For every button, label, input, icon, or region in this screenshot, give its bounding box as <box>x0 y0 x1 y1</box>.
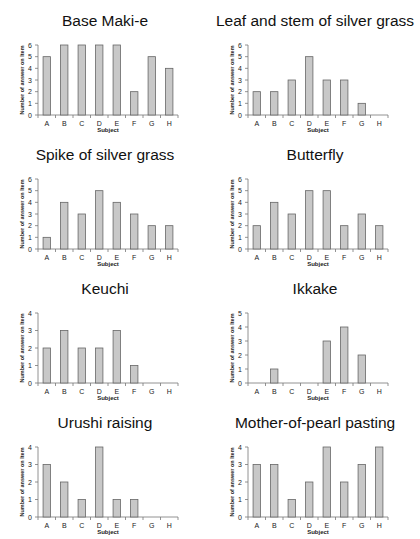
x-tick-label: C <box>289 120 294 127</box>
x-tick-label: E <box>114 388 119 395</box>
x-tick-label: G <box>359 254 364 261</box>
x-tick-label: B <box>272 120 277 127</box>
y-axis-label: Number of answer on Item <box>229 442 235 522</box>
y-axis-label: Number of answer on Item <box>229 174 235 254</box>
y-tick-label: 2 <box>28 88 32 95</box>
bar <box>113 202 120 249</box>
y-tick-label: 1 <box>238 366 242 373</box>
bar-chart: 0123456ABCDEFGH <box>0 134 210 268</box>
bar <box>288 214 295 249</box>
x-tick-label: E <box>324 120 329 127</box>
y-tick-label: 2 <box>238 479 242 486</box>
bar <box>271 465 278 518</box>
bar <box>61 331 68 384</box>
bar <box>43 465 50 518</box>
bar <box>271 369 278 383</box>
y-tick-label: 3 <box>238 338 242 345</box>
bar <box>113 45 120 115</box>
y-tick-label: 0 <box>28 112 32 119</box>
x-tick-label: H <box>377 120 382 127</box>
bar <box>306 57 313 115</box>
x-tick-label: F <box>132 120 136 127</box>
x-tick-label: D <box>97 522 102 529</box>
bar <box>113 500 120 518</box>
bar-chart: 0123456ABCDEFGH <box>210 0 420 134</box>
x-tick-label: C <box>289 388 294 395</box>
x-tick-label: D <box>97 120 102 127</box>
chart-panel: Keuchi01234ABCDEFGHNumber of answer on I… <box>0 268 210 402</box>
x-tick-label: B <box>62 254 67 261</box>
chart-panel: Mother-of-pearl pasting01234ABCDEFGHNumb… <box>210 402 420 536</box>
x-tick-label: G <box>359 120 364 127</box>
y-axis-label: Number of answer on Item <box>19 442 25 522</box>
x-tick-label: H <box>377 388 382 395</box>
bar <box>323 80 330 115</box>
y-tick-label: 3 <box>238 461 242 468</box>
x-tick-label: B <box>272 254 277 261</box>
x-tick-label: F <box>342 388 346 395</box>
x-tick-label: G <box>359 522 364 529</box>
x-tick-label: D <box>97 388 102 395</box>
bar <box>78 500 85 518</box>
x-tick-label: C <box>79 254 84 261</box>
x-tick-label: E <box>324 522 329 529</box>
y-axis-label: Number of answer on Item <box>229 40 235 120</box>
bar <box>253 465 260 518</box>
y-tick-label: 5 <box>238 53 242 60</box>
y-tick-label: 1 <box>238 234 242 241</box>
bar <box>61 45 68 115</box>
y-tick-label: 0 <box>238 112 242 119</box>
bar <box>43 57 50 115</box>
bar <box>376 447 383 517</box>
bar-chart: 01234ABCDEFGH <box>0 268 210 402</box>
bar <box>96 447 103 517</box>
y-tick-label: 4 <box>238 444 242 451</box>
y-tick-label: 5 <box>238 310 242 317</box>
bar <box>166 226 173 249</box>
y-tick-label: 0 <box>238 380 242 387</box>
y-tick-label: 4 <box>238 324 242 331</box>
x-tick-label: B <box>62 522 67 529</box>
bar <box>96 191 103 249</box>
y-tick-label: 3 <box>28 77 32 84</box>
x-tick-label: G <box>359 388 364 395</box>
x-tick-label: D <box>307 388 312 395</box>
y-tick-label: 1 <box>28 234 32 241</box>
x-tick-label: D <box>307 522 312 529</box>
x-tick-label: E <box>114 522 119 529</box>
bar <box>166 68 173 115</box>
bar <box>113 331 120 384</box>
y-tick-label: 4 <box>238 65 242 72</box>
bar <box>131 214 138 249</box>
bar <box>288 500 295 518</box>
x-tick-label: B <box>62 120 67 127</box>
chart-panel: Leaf and stem of silver grass0123456ABCD… <box>210 0 420 134</box>
bar <box>43 348 50 383</box>
y-tick-label: 6 <box>238 42 242 49</box>
x-tick-label: H <box>167 388 172 395</box>
x-tick-label: F <box>342 254 346 261</box>
x-axis-label: Subject <box>248 261 388 267</box>
y-tick-label: 2 <box>28 345 32 352</box>
y-tick-label: 0 <box>28 380 32 387</box>
bar <box>358 355 365 383</box>
x-tick-label: H <box>167 522 172 529</box>
chart-grid: Base Maki-e0123456ABCDEFGHNumber of answ… <box>0 0 420 539</box>
x-axis-label: Subject <box>38 529 178 535</box>
bar <box>271 92 278 115</box>
x-tick-label: F <box>132 254 136 261</box>
x-axis-label: Subject <box>248 127 388 133</box>
y-tick-label: 2 <box>28 479 32 486</box>
x-tick-label: H <box>377 254 382 261</box>
bar <box>253 226 260 249</box>
x-tick-label: H <box>167 120 172 127</box>
y-tick-label: 1 <box>238 496 242 503</box>
y-tick-label: 3 <box>238 77 242 84</box>
y-tick-label: 5 <box>28 187 32 194</box>
chart-panel: Ikkake012345ABCDEFGHNumber of answer on … <box>210 268 420 402</box>
bar <box>78 45 85 115</box>
y-tick-label: 2 <box>238 88 242 95</box>
x-tick-label: C <box>289 522 294 529</box>
bar <box>131 500 138 518</box>
bar <box>306 482 313 517</box>
